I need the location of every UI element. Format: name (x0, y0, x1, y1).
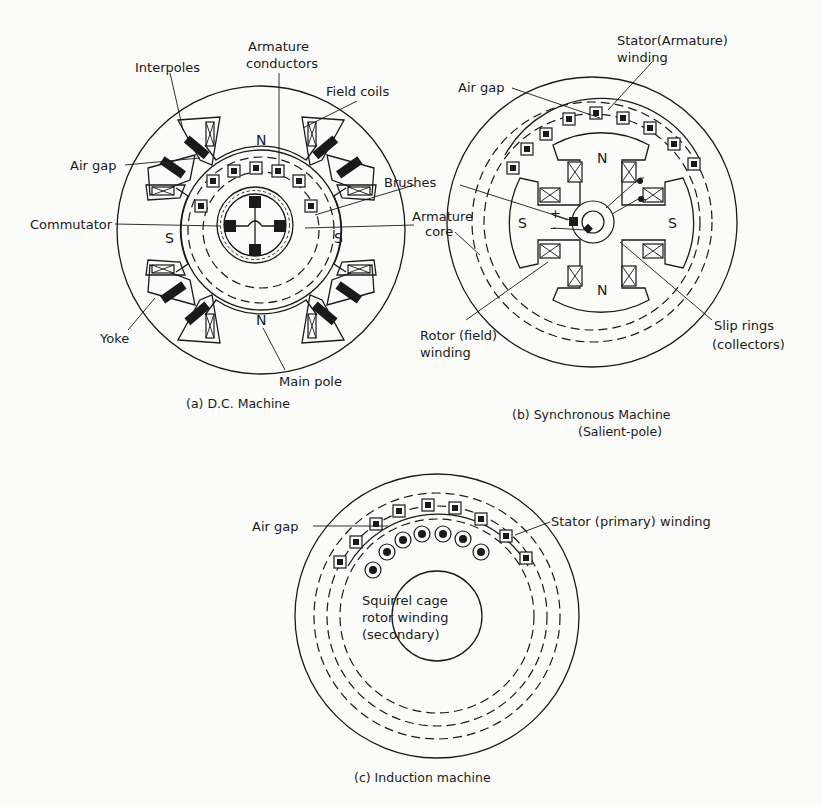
label-rotor-2: rotor winding (362, 610, 448, 625)
brush-left (224, 220, 236, 232)
pole-label-b-top: N (597, 150, 607, 166)
label-slip-rings-1: Slip rings (714, 318, 774, 333)
label-air-gap-c: Air gap (252, 519, 298, 534)
label-armature-conductors-1: Armature (248, 39, 309, 54)
brush-b-1 (569, 217, 578, 226)
label-air-gap-b: Air gap (458, 80, 504, 95)
main-pole-left (176, 188, 188, 272)
pole-label-b-left: S (518, 215, 527, 231)
commutator (217, 187, 293, 263)
label-field-coils: Field coils (326, 84, 389, 99)
label-brushes: Brushes (384, 175, 437, 190)
label-rotor-winding-1: Rotor (field) (420, 328, 497, 343)
dc-machine-diagram: N N S S Interpoles Armature conductors F… (30, 39, 414, 411)
label-air-gap-a: Air gap (70, 158, 116, 173)
label-stator-winding-2: winding (617, 50, 668, 65)
brush-right (274, 220, 286, 232)
rotor-bars (365, 526, 489, 578)
caption-induction-machine: (c) Induction machine (354, 770, 491, 785)
label-yoke: Yoke (99, 331, 129, 346)
armature-dashed-circle-inner (203, 172, 319, 288)
plus-sign: + (550, 206, 561, 221)
leader-stator-winding-c (515, 522, 550, 535)
minus-sign: – (550, 220, 557, 235)
brush-top (249, 196, 261, 208)
yoke-outline (117, 86, 405, 374)
pole-label-bottom: N (256, 312, 266, 328)
caption-sync-machine-1: (b) Synchronous Machine (512, 407, 671, 422)
pole-label-right: S (334, 230, 343, 246)
label-commutator: Commutator (30, 217, 113, 232)
caption-dc-machine: (a) D.C. Machine (186, 396, 290, 411)
pole-label-left: S (165, 230, 174, 246)
label-slip-rings-2: (collectors) (712, 337, 785, 352)
slip-rings (553, 178, 646, 243)
synchronous-machine-diagram: + – N N S S Stator(Armature) winding Air… (420, 33, 785, 439)
pole-label-b-right: S (668, 215, 677, 231)
brush-bottom (249, 244, 261, 256)
induction-machine-diagram: Air gap Stator (primary) winding Squirre… (252, 474, 711, 785)
caption-sync-machine-2: (Salient-pole) (578, 424, 662, 439)
label-stator-primary-winding: Stator (primary) winding (551, 514, 711, 529)
label-armature-core-1: Armature (412, 209, 473, 224)
label-interpoles: Interpoles (135, 60, 200, 75)
label-armature-core-2: core (425, 224, 453, 239)
label-rotor-1: Squirrel cage (362, 593, 448, 608)
pole-label-b-bottom: N (597, 282, 607, 298)
electric-machines-figure: N N S S Interpoles Armature conductors F… (0, 0, 822, 806)
label-stator-winding-1: Stator(Armature) (617, 33, 728, 48)
label-rotor-3: (secondary) (362, 627, 440, 642)
sync-leader-lines (455, 62, 712, 320)
label-main-pole: Main pole (279, 374, 342, 389)
label-armature-conductors-2: conductors (246, 56, 318, 71)
pole-label-top: N (256, 132, 266, 148)
label-rotor-winding-2: winding (420, 345, 471, 360)
